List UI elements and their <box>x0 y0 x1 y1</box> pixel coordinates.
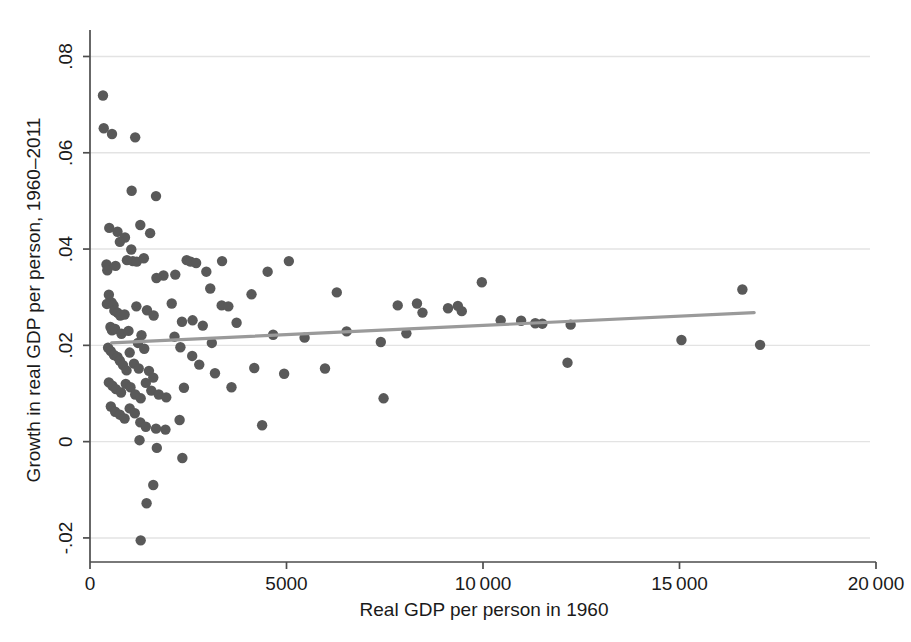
data-point <box>110 261 120 271</box>
data-point <box>151 191 161 201</box>
data-point <box>134 435 144 445</box>
data-point <box>151 273 161 283</box>
x-tick-label: 0 <box>85 573 96 594</box>
data-point <box>443 303 453 313</box>
data-point <box>217 256 227 266</box>
data-point <box>136 393 146 403</box>
data-point <box>257 420 267 430</box>
data-point <box>126 244 136 254</box>
data-point <box>231 318 241 328</box>
trendline <box>112 313 755 343</box>
y-tick-label: 0 <box>55 436 76 447</box>
data-point <box>141 422 151 432</box>
data-point <box>187 315 197 325</box>
data-point <box>378 393 388 403</box>
y-tick-label: -.02 <box>55 522 76 555</box>
data-point <box>151 423 161 433</box>
data-point <box>284 256 294 266</box>
gridlines-group <box>90 56 870 537</box>
data-point <box>191 258 201 268</box>
data-point <box>130 132 140 142</box>
data-point <box>332 287 342 297</box>
data-point <box>177 453 187 463</box>
x-tick-labels-group: 0500010 00015 00020 000 <box>85 573 905 594</box>
data-point <box>119 413 129 423</box>
data-point <box>194 359 204 369</box>
data-point <box>205 283 215 293</box>
data-point <box>139 344 149 354</box>
data-point <box>320 363 330 373</box>
data-point <box>198 320 208 330</box>
data-point <box>226 382 236 392</box>
data-point <box>130 408 140 418</box>
data-point <box>249 363 259 373</box>
data-point <box>115 237 125 247</box>
data-point <box>412 298 422 308</box>
data-point <box>119 309 129 319</box>
data-point <box>126 186 136 196</box>
data-point <box>175 342 185 352</box>
data-point <box>98 90 108 100</box>
data-point <box>148 310 158 320</box>
data-point <box>187 351 197 361</box>
x-tick-label: 20 000 <box>848 573 905 594</box>
chart-canvas: 0500010 00015 00020 000 -.020.02.04.06.0… <box>0 0 911 642</box>
data-point <box>160 424 170 434</box>
y-tick-labels-group: -.020.02.04.06.08 <box>55 43 76 554</box>
data-point <box>135 220 145 230</box>
y-axis-title: Growth in real GDP per person, 1960–2011 <box>23 118 44 483</box>
x-tick-label: 5000 <box>265 573 307 594</box>
data-point <box>148 480 158 490</box>
x-tick-label: 10 000 <box>455 573 512 594</box>
data-point <box>152 443 162 453</box>
axis-lines-group <box>90 30 876 562</box>
data-point <box>676 335 686 345</box>
data-point <box>737 284 747 294</box>
data-point <box>134 363 144 373</box>
data-point <box>136 535 146 545</box>
y-tick-label: .02 <box>55 332 76 358</box>
y-tick-label: .08 <box>55 43 76 69</box>
data-point <box>131 301 141 311</box>
data-point <box>170 269 180 279</box>
data-point <box>562 357 572 367</box>
scatter-plot-figure: 0500010 00015 00020 000 -.020.02.04.06.0… <box>0 0 911 642</box>
data-point <box>262 266 272 276</box>
data-point <box>755 340 765 350</box>
data-point <box>141 498 151 508</box>
data-point <box>177 317 187 327</box>
data-point <box>393 300 403 310</box>
y-tick-label: .06 <box>55 140 76 166</box>
y-tick-label: .04 <box>55 235 76 262</box>
data-point <box>417 307 427 317</box>
x-axis-title: Real GDP per person in 1960 <box>360 599 609 620</box>
data-point <box>124 347 134 357</box>
data-point <box>139 253 149 263</box>
data-point <box>201 266 211 276</box>
data-point <box>167 298 177 308</box>
data-point <box>210 368 220 378</box>
data-point <box>457 306 467 316</box>
data-point <box>477 277 487 287</box>
x-tick-label: 15 000 <box>651 573 708 594</box>
data-point <box>174 415 184 425</box>
data-point <box>376 337 386 347</box>
data-point <box>123 326 133 336</box>
data-point <box>246 289 256 299</box>
data-point <box>145 228 155 238</box>
data-point <box>161 392 171 402</box>
trendline-group <box>112 313 755 343</box>
data-point <box>179 383 189 393</box>
tick-marks-group <box>83 56 876 569</box>
data-point <box>223 301 233 311</box>
data-point <box>279 369 289 379</box>
data-point <box>107 129 117 139</box>
